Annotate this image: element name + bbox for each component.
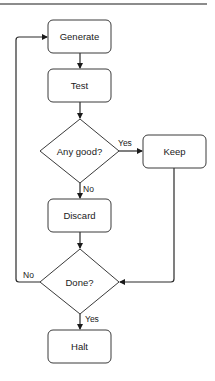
- edge-done-to-generate: [16, 37, 47, 282]
- node-keep[interactable]: Keep: [143, 135, 206, 168]
- node-generate-label: Generate: [60, 31, 100, 42]
- node-halt-label: Halt: [71, 341, 88, 352]
- node-discard[interactable]: Discard: [48, 199, 111, 232]
- node-discard-label: Discard: [63, 210, 95, 221]
- node-halt[interactable]: Halt: [48, 330, 111, 363]
- node-done-decision[interactable]: Done?: [40, 249, 119, 314]
- edge-label-done-no: No: [23, 270, 34, 280]
- node-generate[interactable]: Generate: [48, 20, 111, 53]
- node-keep-label: Keep: [163, 146, 185, 157]
- node-any-good-decision[interactable]: Any good?: [40, 119, 119, 183]
- node-done-label: Done?: [66, 277, 94, 288]
- node-any-good-label: Any good?: [57, 146, 102, 157]
- edge-label-done-yes: Yes: [85, 314, 99, 324]
- edge-label-any-good-yes: Yes: [118, 138, 132, 148]
- node-test-label: Test: [71, 80, 89, 91]
- edge-label-any-good-no: No: [83, 184, 94, 194]
- flowchart-diagram: Generate Test Any good? Keep Discard Don…: [0, 0, 215, 381]
- node-test[interactable]: Test: [48, 69, 111, 102]
- edge-keep-to-done: [120, 168, 174, 282]
